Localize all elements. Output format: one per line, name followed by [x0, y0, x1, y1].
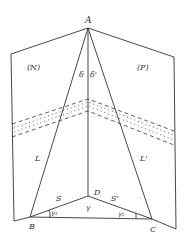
angle-arc-B	[49, 210, 50, 217]
label-plane-P: (P)	[137, 63, 149, 72]
label-delta-prime: δ'	[90, 70, 97, 79]
stratum-band	[12, 99, 174, 145]
stratum-band-fill	[14, 102, 174, 140]
folded-planes-diagram: A (N) (P) δ δ' L L' S S' D γ γ₁ γ₂ B C	[0, 0, 188, 244]
label-C: C	[150, 225, 156, 234]
left-plane-outline	[11, 28, 88, 221]
label-L-prime: L'	[139, 154, 148, 163]
label-D: D	[93, 188, 101, 197]
label-gamma2: γ₂	[118, 210, 125, 218]
edge-BC	[30, 217, 152, 219]
label-plane-N: (N)	[27, 63, 40, 72]
label-A: A	[84, 15, 92, 25]
label-delta: δ	[79, 70, 84, 79]
label-gamma1: γ₁	[51, 209, 58, 217]
label-S-prime: S'	[111, 194, 119, 203]
diagram-canvas: A (N) (P) δ δ' L L' S S' D γ γ₁ γ₂ B C	[0, 0, 188, 244]
edge-L	[30, 28, 88, 217]
label-B: B	[28, 222, 35, 231]
label-S: S	[56, 194, 62, 203]
label-L: L	[34, 154, 40, 163]
label-gamma: γ	[86, 204, 91, 212]
